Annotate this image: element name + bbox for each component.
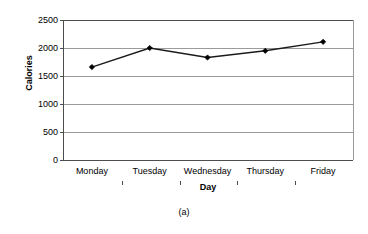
data-series-calories xyxy=(63,20,352,161)
data-point-marker xyxy=(89,64,94,69)
x-tick-label-monday: Monday xyxy=(76,166,108,176)
y-tick-label: 2000 xyxy=(24,44,58,53)
y-tick-label: 0 xyxy=(24,156,58,165)
figure-container: Calories 2500 2000 1500 1000 500 0 Monda… xyxy=(0,0,368,234)
y-tick-label: 1000 xyxy=(24,100,58,109)
x-tick-label-tuesday: Tuesday xyxy=(133,166,167,176)
y-tick-label: 2500 xyxy=(24,16,58,25)
x-axis-title: Day xyxy=(63,182,353,192)
data-point-marker xyxy=(205,55,210,60)
x-tick-label-wednesday: Wednesday xyxy=(184,166,231,176)
figure-caption: (a) xyxy=(0,207,368,217)
data-point-marker xyxy=(263,48,268,53)
x-tick-label-thursday: Thursday xyxy=(247,166,285,176)
y-tick-label: 1500 xyxy=(24,72,58,81)
y-axis-tick-labels: 2500 2000 1500 1000 500 0 xyxy=(22,0,58,161)
data-point-marker xyxy=(321,39,326,44)
x-tick-label-friday: Friday xyxy=(311,166,336,176)
data-point-marker xyxy=(147,45,152,50)
y-tick-label: 500 xyxy=(24,128,58,137)
